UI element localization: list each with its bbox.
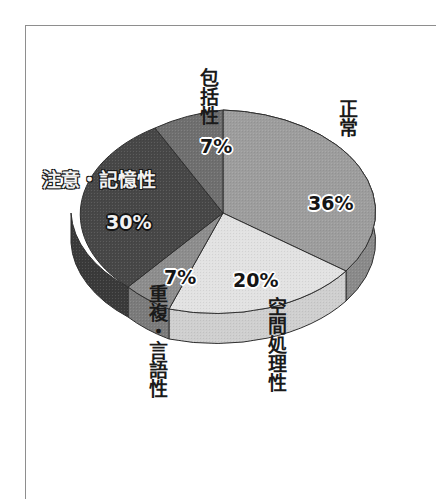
slice-percent-kuukan: 20% <box>233 269 278 291</box>
slice-label-juufuku: 重複・言語性 <box>147 284 166 398</box>
slice-percent-chuui: 30% <box>106 211 151 233</box>
slice-label-hokatsu: 包括性 <box>198 68 217 125</box>
slice-percent-hokatsu: 7% <box>200 135 232 157</box>
slice-label-seijou: 正常 <box>337 99 356 137</box>
pie-chart: 包括性 7% 正常 36% 注意・記憶性 30% 重複・言語性 7% 空間処理性… <box>26 26 436 499</box>
pie-chart-graphic <box>26 26 436 499</box>
slice-label-kuukan: 空間処理性 <box>266 297 285 392</box>
slice-percent-juufuku: 7% <box>164 266 196 288</box>
figure-root: 包括性 7% 正常 36% 注意・記憶性 30% 重複・言語性 7% 空間処理性… <box>0 0 436 499</box>
slice-label-chuui: 注意・記憶性 <box>42 171 156 190</box>
slice-percent-seijou: 36% <box>308 192 353 214</box>
